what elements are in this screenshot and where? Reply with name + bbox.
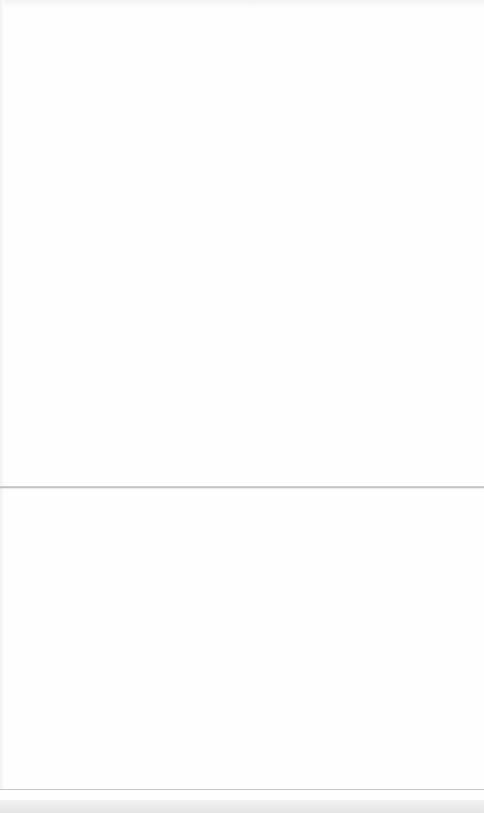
bottom-edge-strip	[0, 800, 484, 813]
blank-sheet	[0, 0, 484, 813]
lower-panel	[0, 488, 484, 789]
upper-panel	[0, 0, 484, 486]
bottom-edge-line	[0, 789, 484, 790]
